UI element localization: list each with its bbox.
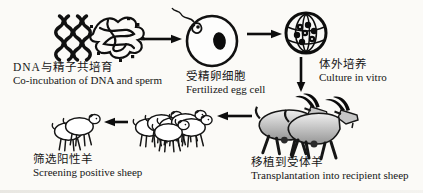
label-co-incubation: DNA与精子共培育 Co-incubation of DNA and sperm: [13, 61, 162, 87]
label-transplantation-zh: 移植到受体羊: [251, 156, 409, 169]
label-transplantation: 移植到受体羊 Transplantation into recipient sh…: [251, 156, 409, 182]
label-culture-in-vitro-zh: 体外培养: [319, 58, 387, 71]
arrow-right-1-icon: [144, 35, 182, 44]
label-fertilized-egg-en: Fertilized egg cell: [186, 83, 265, 96]
label-transplantation-en: Transplantation into recipient sheep: [251, 169, 409, 182]
arrow-left-2-icon: [104, 118, 128, 127]
arrow-right-2-icon: [247, 30, 282, 39]
positive-sheep-icon: [52, 114, 100, 151]
label-co-incubation-zh: DNA与精子共培育: [13, 61, 162, 74]
sperm-dna-cluster-icon: [90, 17, 144, 62]
label-screening-zh: 筛选阳性羊: [33, 153, 142, 166]
label-screening-en: Screening positive sheep: [33, 166, 142, 179]
fertilized-egg-icon: [172, 8, 237, 66]
scan-edge: [0, 190, 423, 193]
label-culture-in-vitro: 体外培养 Culture in vitro: [319, 58, 387, 84]
label-culture-in-vitro-en: Culture in vitro: [319, 71, 387, 84]
recipient-goats-icon: [256, 94, 358, 159]
diagram-figure: DNA与精子共培育 Co-incubation of DNA and sperm…: [0, 0, 423, 193]
dna-strands-icon: [56, 16, 91, 60]
embryo-ball-icon: [286, 13, 326, 53]
label-co-incubation-en: Co-incubation of DNA and sperm: [13, 74, 162, 87]
arrow-left-1-icon: [217, 112, 252, 121]
label-fertilized-egg: 受精卵细胞 Fertilized egg cell: [186, 70, 265, 96]
label-fertilized-egg-zh: 受精卵细胞: [186, 70, 265, 83]
label-screening: 筛选阳性羊 Screening positive sheep: [33, 153, 142, 179]
sheep-flock-icon: [133, 110, 212, 152]
arrow-down-icon: [297, 57, 306, 92]
